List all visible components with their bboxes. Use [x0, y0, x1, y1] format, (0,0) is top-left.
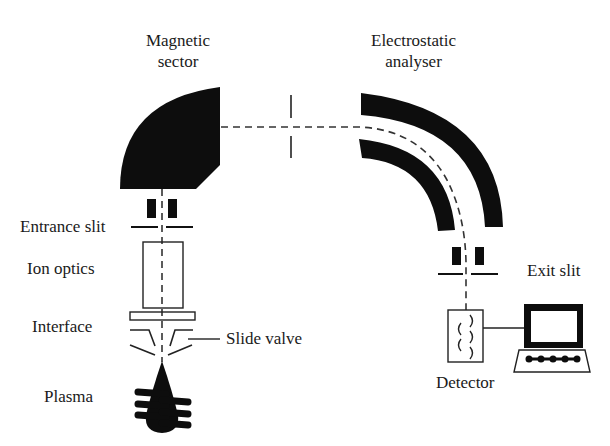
label-ion-optics: Ion optics	[27, 258, 95, 279]
plasma-torch-icon	[138, 361, 188, 433]
label-slide-valve: Slide valve	[226, 328, 302, 349]
label-exit-slit: Exit slit	[527, 260, 580, 281]
label-interface: Interface	[32, 316, 92, 337]
label-magnetic-line2: sector	[128, 51, 228, 72]
label-entrance-slit: Entrance slit	[20, 216, 105, 237]
exit-slit	[438, 247, 498, 274]
esa-inner-plate	[359, 139, 455, 231]
label-magnetic-line1: Magnetic	[128, 30, 228, 51]
electron-multiplier-icon	[448, 310, 483, 362]
label-electrostatic-line2: analyser	[356, 51, 471, 72]
label-detector: Detector	[436, 372, 495, 393]
label-electrostatic-line1: Electrostatic	[356, 30, 471, 51]
label-magnetic-sector: Magnetic sector	[128, 30, 228, 72]
electrostatic-analyser	[359, 93, 503, 231]
label-electrostatic-analyser: Electrostatic analyser	[356, 30, 471, 72]
magnetic-sector	[120, 87, 220, 189]
ion-optics	[143, 242, 183, 308]
computer-icon	[514, 304, 590, 372]
label-plasma: Plasma	[44, 386, 93, 407]
